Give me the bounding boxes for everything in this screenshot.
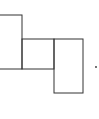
dot-marker: [95, 66, 97, 68]
rectangle-diagram: [0, 0, 99, 119]
diagram-background: [0, 0, 99, 119]
